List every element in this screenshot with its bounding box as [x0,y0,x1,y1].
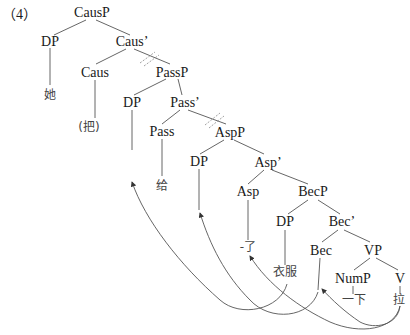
node-aspp: AspP [215,125,246,140]
leaf-ba: (把) [78,120,99,134]
leaf-subject: 她 [44,88,56,102]
tree-edges [50,20,400,294]
node-causp: CausP [74,5,110,20]
example-label: （4） [2,7,37,22]
arrow-yifu-to-passp-spec [132,182,287,310]
node-dp-asp: DP [190,154,208,169]
leaf-gei: 给 [156,179,168,193]
node-dp-bec: DP [276,214,294,229]
node-bec-bar: Bec’ [329,214,355,229]
leaf-la: 拉 [393,292,405,307]
node-pass-bar: Pass’ [170,95,200,110]
arrow-bec-to-aspp-spec [200,213,318,314]
node-bec: Bec [310,243,332,258]
node-dp-pass: DP [123,95,141,110]
node-passp: PassP [156,65,189,80]
leaf-yifu: 衣服 [273,264,297,279]
node-pass: Pass [150,124,175,139]
strike-marks [140,52,224,128]
node-vp: VP [364,243,382,258]
node-dp-subject: DP [41,34,59,49]
node-asp-bar: Asp’ [254,155,281,170]
leaf-le: -了 [240,240,256,254]
node-v: V [395,271,405,286]
node-caus-bar: Caus’ [116,34,149,49]
leaf-yixia: 一下 [342,293,366,307]
node-nump: NumP [335,271,371,286]
node-caus: Caus [81,65,109,80]
syntax-tree-diagram: （4） CausP DP [0,0,410,335]
node-becp: BecP [298,184,328,199]
node-asp: Asp [237,184,260,199]
